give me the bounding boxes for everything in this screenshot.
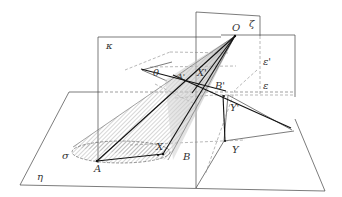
label-A-prime: A' — [176, 72, 185, 81]
cone-diagram: O ζ κ θ A' X' B' Y' ε' ε σ X A B Y η — [0, 0, 342, 197]
label-O: O — [232, 22, 240, 33]
label-B: B — [182, 151, 190, 162]
label-zeta: ζ — [249, 18, 255, 29]
label-B-prime: B' — [214, 80, 225, 91]
label-theta: θ — [153, 67, 159, 78]
label-sigma: σ — [62, 150, 70, 161]
label-epsilon-prime: ε' — [263, 56, 271, 67]
label-A: A — [93, 163, 101, 174]
label-X-prime: X' — [196, 67, 207, 78]
label-epsilon: ε — [263, 80, 268, 91]
label-Y-prime: Y' — [230, 102, 239, 113]
label-X: X — [155, 141, 164, 152]
label-Y: Y — [232, 144, 240, 155]
label-kappa: κ — [105, 40, 113, 51]
cone — [72, 36, 235, 163]
label-eta: η — [37, 171, 43, 182]
plane-zeta — [196, 12, 294, 188]
